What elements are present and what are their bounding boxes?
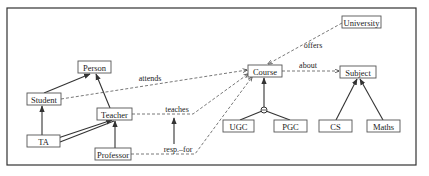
edge-student-person — [44, 74, 90, 93]
node-cs[interactable]: CS — [319, 120, 352, 132]
isa-edges — [42, 74, 383, 148]
edge-cs-subject — [336, 79, 357, 120]
node-cs-label: CS — [330, 122, 341, 132]
node-ugc[interactable]: UGC — [223, 120, 254, 132]
node-pgc-label: PGC — [282, 122, 299, 132]
edge-pgc-junction — [266, 111, 290, 120]
node-pgc[interactable]: PGC — [274, 120, 307, 132]
label-offers: offers — [304, 41, 323, 50]
node-university[interactable]: University — [342, 16, 381, 28]
node-student[interactable]: Student — [27, 93, 61, 105]
edge-ta-teacher-2 — [60, 121, 114, 142]
relation-edges — [61, 23, 342, 154]
node-ta[interactable]: TA — [27, 135, 60, 147]
node-maths-label: Maths — [373, 122, 394, 132]
node-person[interactable]: Person — [78, 61, 111, 73]
label-about: about — [299, 61, 318, 70]
diagram-frame — [7, 8, 416, 165]
node-course-label: Course — [253, 67, 277, 77]
edge-resp-for — [131, 77, 252, 154]
label-teaches: teaches — [165, 105, 189, 114]
node-professor[interactable]: Professor — [95, 148, 131, 160]
edge-teacher-person — [96, 74, 110, 108]
node-university-label: University — [344, 18, 381, 28]
node-maths[interactable]: Maths — [367, 120, 400, 132]
node-course[interactable]: Course — [248, 65, 282, 77]
label-resp-for: resp.–for — [164, 145, 193, 154]
node-teacher-label: Teacher — [101, 110, 128, 120]
label-attends: attends — [139, 74, 162, 83]
node-person-label: Person — [83, 63, 107, 73]
node-teacher[interactable]: Teacher — [97, 108, 132, 120]
edge-ta-teacher — [58, 120, 112, 138]
ontology-diagram: attends teaches resp.–for offers about P… — [0, 0, 429, 176]
edge-maths-subject — [360, 79, 383, 120]
node-subject[interactable]: Subject — [340, 66, 376, 78]
edge-ugc-junction — [240, 111, 262, 120]
node-student-label: Student — [31, 95, 58, 105]
node-subject-label: Subject — [345, 68, 371, 78]
node-ugc-label: UGC — [230, 122, 248, 132]
disjoint-junction-icon — [261, 107, 267, 113]
node-professor-label: Professor — [97, 150, 129, 160]
node-ta-label: TA — [38, 137, 50, 147]
